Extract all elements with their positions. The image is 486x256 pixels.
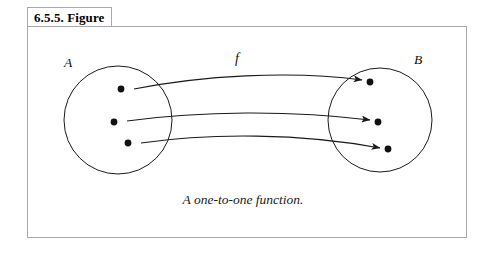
set-label-a: A — [64, 56, 72, 70]
mapping-arrow-2 — [127, 113, 370, 121]
set-label-b: B — [414, 53, 422, 67]
figure-root: 6.5.5. Figure A B f A one-to-one functio… — [0, 0, 486, 256]
function-label-f: f — [235, 52, 239, 66]
figure-title-box: 6.5.5. Figure — [27, 7, 112, 27]
mapping-arrow-3 — [141, 136, 380, 148]
figure-caption: A one-to-one function. — [0, 192, 486, 208]
set-circle-a — [64, 66, 172, 174]
element-dot-b3 — [385, 146, 392, 153]
figure-title: 6.5.5. Figure — [34, 11, 104, 24]
element-dot-a2 — [111, 119, 118, 126]
mapping-arrow-1 — [134, 75, 362, 89]
mapping-diagram — [0, 0, 486, 256]
element-dot-b2 — [375, 119, 382, 126]
element-dot-a3 — [125, 140, 132, 147]
element-dot-b1 — [367, 79, 374, 86]
element-dot-a1 — [118, 86, 125, 93]
